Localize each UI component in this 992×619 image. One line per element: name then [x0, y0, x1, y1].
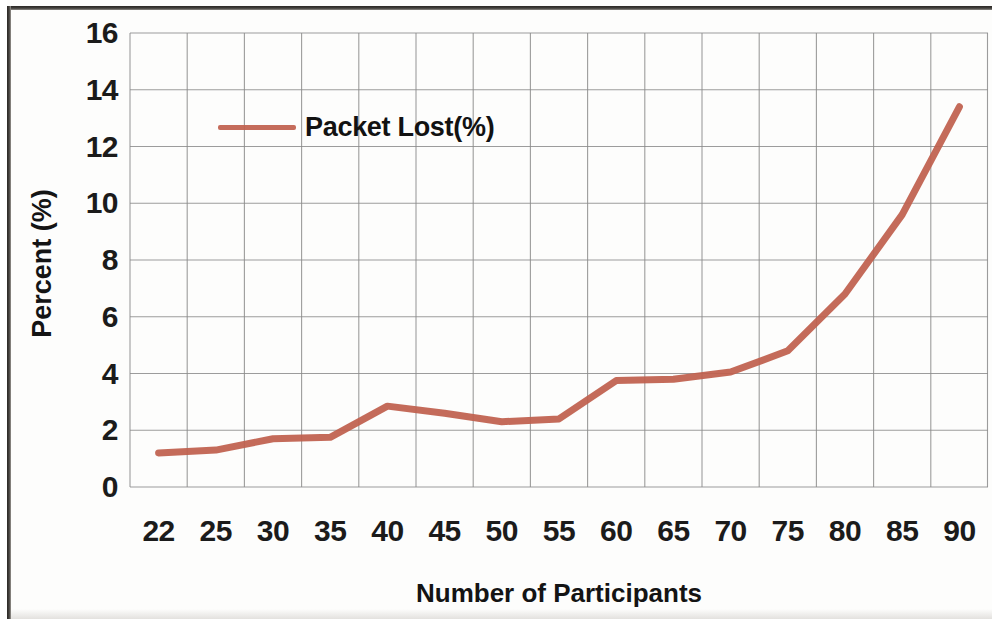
x-axis-tick-45: 45: [415, 516, 475, 546]
x-axis-tick-80: 80: [815, 516, 875, 546]
y-axis-tick-16: 16: [18, 18, 118, 48]
y-axis-tick-0: 0: [18, 472, 118, 502]
legend-label-packet-lost: Packet Lost(%): [305, 112, 494, 143]
x-axis-tick-90: 90: [929, 516, 989, 546]
chart-legend: Packet Lost(%): [218, 112, 494, 143]
x-axis-tick-55: 55: [529, 516, 589, 546]
x-axis-tick-85: 85: [872, 516, 932, 546]
x-axis-title: Number of Participants: [130, 578, 988, 609]
y-axis-tick-8: 8: [18, 245, 118, 275]
x-axis-tick-25: 25: [186, 516, 246, 546]
x-axis-tick-60: 60: [586, 516, 646, 546]
x-axis-tick-30: 30: [243, 516, 303, 546]
y-axis-tick-10: 10: [18, 188, 118, 218]
x-axis-tick-22: 22: [129, 516, 189, 546]
y-axis-tick-4: 4: [18, 359, 118, 389]
x-axis-tick-75: 75: [758, 516, 818, 546]
x-axis-tick-70: 70: [701, 516, 761, 546]
legend-line-swatch-packet-lost: [218, 125, 296, 130]
chart-page: Percent (%) 1614121086420 Packet Lost(%)…: [0, 0, 992, 619]
series-line-0: [159, 107, 960, 453]
plot-svg: [130, 33, 988, 487]
x-axis-tick-35: 35: [300, 516, 360, 546]
x-axis-tick-labels: 222530354045505560657075808590: [130, 516, 988, 558]
x-axis-tick-40: 40: [357, 516, 417, 546]
line-chart: Percent (%) 1614121086420 Packet Lost(%)…: [0, 0, 992, 619]
y-axis-tick-6: 6: [18, 302, 118, 332]
y-axis-tick-14: 14: [18, 75, 118, 105]
x-axis-tick-50: 50: [472, 516, 532, 546]
y-axis-tick-labels: 1614121086420: [0, 33, 118, 487]
y-axis-tick-2: 2: [18, 415, 118, 445]
x-axis-tick-65: 65: [643, 516, 703, 546]
y-axis-tick-12: 12: [18, 132, 118, 162]
plot-area: [130, 33, 988, 487]
